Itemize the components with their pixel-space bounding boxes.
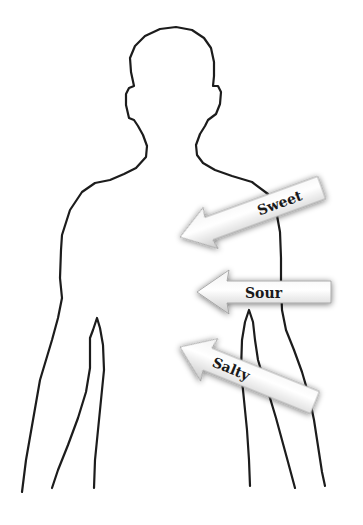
- arrow-sour-label: Sour: [245, 285, 283, 301]
- body-figure: Sweet Sour Salty: [0, 0, 363, 525]
- left-inner-arm-outline: [52, 318, 104, 488]
- arrow-sour: Sour: [197, 270, 331, 314]
- diagram-canvas: Sweet Sour Salty: [0, 0, 363, 525]
- body-outline-main: [22, 27, 325, 492]
- arrow-salty: Salty: [171, 327, 324, 424]
